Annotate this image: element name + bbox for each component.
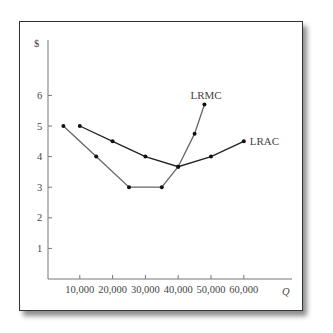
data-point	[242, 139, 246, 143]
data-point	[160, 185, 164, 189]
series-label-lrac: LRAC	[250, 135, 279, 147]
cost-curves-chart: 12345610,00020,00030,00040,00050,00060,0…	[0, 0, 333, 333]
series-lrac-line	[80, 126, 244, 167]
y-axis-label: $	[34, 38, 39, 49]
y-tick-label: 4	[37, 151, 43, 162]
data-point	[61, 124, 65, 128]
y-tick-label: 3	[37, 182, 42, 193]
x-tick-label: 40,000	[164, 284, 193, 295]
y-tick-label: 6	[37, 90, 42, 101]
y-tick-label: 2	[37, 212, 42, 223]
x-tick-label: 30,000	[131, 284, 160, 295]
axes: 12345610,00020,00030,00040,00050,00060,0…	[37, 40, 292, 295]
x-axis-label: Q	[282, 286, 290, 297]
y-tick-label: 1	[37, 243, 42, 254]
data-point	[78, 124, 82, 128]
data-point	[143, 155, 147, 159]
series-lines: LRACLRMC	[61, 89, 279, 190]
y-tick-label: 5	[37, 121, 42, 132]
x-tick-label: 60,000	[229, 284, 258, 295]
series-label-lrmc: LRMC	[190, 89, 221, 101]
data-point	[193, 132, 197, 136]
data-point	[127, 185, 131, 189]
x-tick-label: 20,000	[98, 284, 127, 295]
data-point	[202, 103, 206, 107]
data-point	[176, 165, 180, 169]
x-tick-label: 10,000	[65, 284, 94, 295]
data-point	[94, 155, 98, 159]
data-point	[209, 155, 213, 159]
x-tick-label: 50,000	[197, 284, 226, 295]
data-point	[111, 139, 115, 143]
series-lrmc-line	[63, 105, 204, 188]
